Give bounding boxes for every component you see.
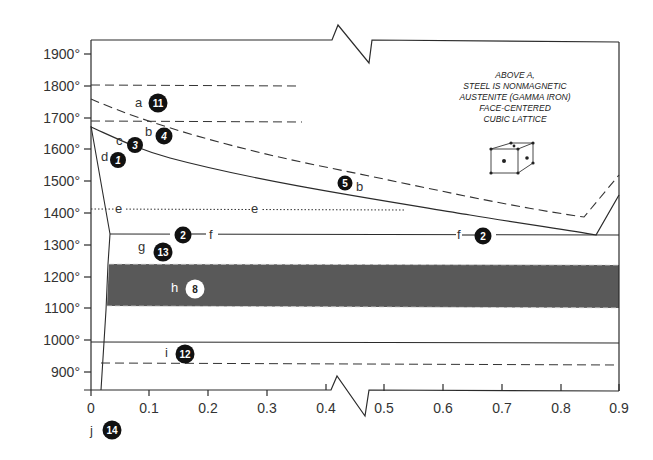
y-tick-1100: 1100° xyxy=(44,300,80,316)
y-tick-1300: 1300° xyxy=(43,237,80,253)
badge-11: 11 xyxy=(153,98,164,109)
badge-2-right: 2 xyxy=(480,231,486,242)
label-e-mid: e xyxy=(250,201,261,216)
letter-c: c xyxy=(116,133,123,148)
note-line-5: CUBIC LATTICE xyxy=(483,114,546,124)
label-j: j 14 xyxy=(89,421,122,440)
label-e-left: e xyxy=(114,201,125,216)
letter-f-right: f xyxy=(457,227,461,242)
line-1690-dashed xyxy=(91,121,302,122)
label-d: d 1 xyxy=(101,149,126,168)
x-tick-0.2: 0.2 xyxy=(198,400,218,416)
iron-carbon-diagram: 1900° 1800° 1700° 1600° 1500° 1400° 1300… xyxy=(0,0,653,460)
x-tick-0.3: 0.3 xyxy=(257,400,277,416)
note-line-2: STEEL IS NONMAGNETIC xyxy=(463,81,567,91)
x-tick-labels: 0 0.1 0.2 0.3 0.4 0.5 0.6 0.7 0.8 0.9 xyxy=(87,400,629,416)
label-i: i 12 xyxy=(165,345,195,364)
letter-d: d xyxy=(101,149,108,164)
badge-3: 3 xyxy=(132,140,138,151)
line-1800-dashed xyxy=(91,85,297,86)
y-tick-labels: 1900° 1800° 1700° 1600° 1500° 1400° 1300… xyxy=(43,46,80,380)
x-tick-0: 0 xyxy=(87,400,95,416)
note-line-3: AUSTENITE (GAMMA IRON) xyxy=(458,92,570,102)
x-tick-0.5: 0.5 xyxy=(374,400,394,416)
badge-14: 14 xyxy=(106,425,118,436)
x-tick-0.8: 0.8 xyxy=(551,400,571,416)
letter-h: h xyxy=(171,280,178,295)
letter-b: b xyxy=(145,124,152,139)
letter-i: i xyxy=(165,345,168,360)
y-ticks xyxy=(84,54,91,372)
badge-2: 2 xyxy=(180,230,186,241)
badge-12: 12 xyxy=(179,349,191,360)
line-i-dashed xyxy=(101,363,619,365)
line-e-dotted xyxy=(91,209,405,210)
letter-g: g xyxy=(138,239,145,254)
label-f-left: 2 f xyxy=(170,226,218,244)
label-b-lower: 5 b xyxy=(338,176,364,195)
badge-1: 1 xyxy=(115,155,121,166)
x-tick-0.4: 0.4 xyxy=(316,400,336,416)
letter-e-mid: e xyxy=(251,201,258,216)
austenite-note: ABOVE A, STEEL IS NONMAGNETIC AUSTENITE … xyxy=(458,70,570,124)
badge-4: 4 xyxy=(160,131,167,142)
label-b-upper: b 4 xyxy=(145,124,173,145)
y-tick-1500: 1500° xyxy=(43,173,80,189)
y-tick-1800: 1800° xyxy=(43,78,80,94)
x-tick-0.7: 0.7 xyxy=(492,400,512,416)
note-line-1: ABOVE A, xyxy=(494,70,534,80)
letter-b-lower: b xyxy=(356,179,363,194)
letter-f: f xyxy=(209,227,213,242)
label-g: g 13 xyxy=(138,239,173,262)
badge-8: 8 xyxy=(192,284,198,295)
note-line-4: FACE-CENTERED xyxy=(479,103,551,113)
badge-5: 5 xyxy=(342,178,348,189)
letter-j: j xyxy=(89,423,93,438)
label-c: c 3 xyxy=(116,133,143,153)
badge-13: 13 xyxy=(157,247,169,258)
label-a: a 11 xyxy=(135,94,168,113)
y-tick-1400: 1400° xyxy=(43,205,80,221)
x-tick-0.1: 0.1 xyxy=(139,400,159,416)
shaded-band-h xyxy=(107,264,619,308)
y-tick-900: 900° xyxy=(51,364,80,380)
y-tick-1900: 1900° xyxy=(43,46,80,62)
y-tick-1700: 1700° xyxy=(43,110,80,126)
y-tick-1000: 1000° xyxy=(43,332,80,348)
line-1000-solid xyxy=(91,342,619,343)
letter-e: e xyxy=(115,201,122,216)
y-tick-1600: 1600° xyxy=(43,141,80,157)
y-tick-1200: 1200° xyxy=(43,269,80,285)
x-tick-0.6: 0.6 xyxy=(433,400,453,416)
letter-a: a xyxy=(135,95,143,110)
curve-c-solid xyxy=(91,127,619,235)
x-tick-0.9: 0.9 xyxy=(609,400,629,416)
curve-d-left-boundary xyxy=(91,126,110,390)
fcc-cube-icon xyxy=(489,141,534,174)
label-f-right: f 2 xyxy=(456,226,496,245)
